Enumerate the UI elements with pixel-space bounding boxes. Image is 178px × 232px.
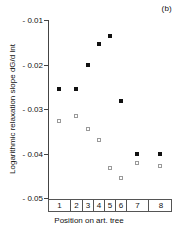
- data-point-open-5: [108, 166, 112, 170]
- data-point-filled-8: [158, 152, 162, 156]
- y-tick-label: - 0.03: [23, 105, 43, 114]
- data-point-open-2: [74, 114, 78, 118]
- data-point-open-7: [135, 161, 139, 165]
- plot-area: - 0.01- 0.02- 0.03- 0.04- 0.05: [48, 20, 172, 198]
- data-point-open-8: [158, 164, 162, 168]
- data-point-filled-3: [86, 63, 90, 67]
- x-axis-category-strip: 12345678: [48, 199, 172, 212]
- y-tick-label: - 0.02: [23, 60, 43, 69]
- data-point-open-3: [86, 127, 90, 131]
- x-category-cell-1: 1: [49, 200, 71, 211]
- panel-label: (b): [162, 4, 172, 13]
- x-category-cell-2: 2: [71, 200, 83, 211]
- y-tick-label: - 0.05: [23, 194, 43, 203]
- y-tick-mark: [44, 154, 49, 155]
- x-category-cell-3: 3: [83, 200, 94, 211]
- x-axis-label: Position on art. tree: [0, 216, 178, 225]
- data-point-open-4: [97, 138, 101, 142]
- data-point-open-1: [57, 119, 61, 123]
- figure-panel-b: (b) Logarithmic relaxation slope dG/d ln…: [0, 0, 178, 232]
- y-tick-mark: [44, 109, 49, 110]
- data-point-filled-2: [74, 87, 78, 91]
- x-category-cell-6: 6: [116, 200, 127, 211]
- y-axis-label: Logarithmic relaxation slope dG/d lnt: [8, 20, 18, 198]
- y-axis-label-wrap: Logarithmic relaxation slope dG/d lnt: [10, 20, 22, 198]
- y-tick-mark: [44, 20, 49, 21]
- y-tick-label: - 0.04: [23, 149, 43, 158]
- x-category-cell-7: 7: [127, 200, 149, 211]
- y-tick-mark: [44, 65, 49, 66]
- x-category-cell-8: 8: [149, 200, 173, 211]
- data-point-filled-6: [119, 99, 123, 103]
- data-point-open-6: [119, 176, 123, 180]
- x-category-cell-4: 4: [94, 200, 105, 211]
- data-point-filled-1: [57, 87, 61, 91]
- x-category-cell-5: 5: [105, 200, 116, 211]
- data-point-filled-7: [135, 152, 139, 156]
- y-tick-label: - 0.01: [23, 16, 43, 25]
- data-point-filled-5: [108, 34, 112, 38]
- data-point-filled-4: [97, 42, 101, 46]
